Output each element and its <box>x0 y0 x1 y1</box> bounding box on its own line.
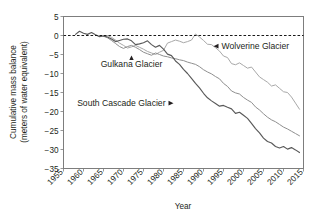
plot-frame <box>64 17 304 169</box>
y-tick-label: −30 <box>45 146 59 155</box>
annotation-label: South Cascade Glacier <box>77 98 166 108</box>
y-tick-label: −35 <box>45 165 59 174</box>
y-tick-label: −20 <box>45 108 59 117</box>
annotation-label: Gulkana Glacier <box>101 59 163 69</box>
y-tick-label: 5 <box>54 13 59 22</box>
annotation-south-cascade-glacier: South Cascade Glacier <box>77 98 173 108</box>
y-axis-title-line1: Cumulative mass balance <box>9 45 18 139</box>
y-tick-label: −5 <box>49 51 59 60</box>
x-axis-title: Year <box>175 202 192 211</box>
y-tick-label: −10 <box>45 70 59 79</box>
chart-canvas: 1955196019651970197519801985199019952000… <box>0 0 315 217</box>
y-axis-title-line2: (meters of water equivalent) <box>20 41 29 143</box>
annotation-label: Wolverine Glacier <box>222 41 290 51</box>
y-tick-label: −25 <box>45 127 59 136</box>
y-tick-label: −15 <box>45 89 59 98</box>
annotation-wolverine-glacier: Wolverine Glacier <box>214 41 290 51</box>
glacier-mass-balance-chart: 1955196019651970197519801985199019952000… <box>0 0 315 217</box>
y-tick-label: 0 <box>54 32 59 41</box>
